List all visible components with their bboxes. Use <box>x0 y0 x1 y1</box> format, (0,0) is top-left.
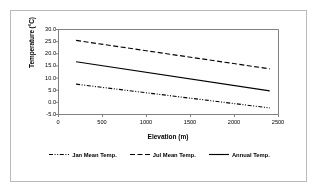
legend-label: Annual Temp. <box>232 152 270 158</box>
x-tick-label: 500 <box>87 119 117 125</box>
x-tick-label: 0 <box>43 119 73 125</box>
x-tick-label: 1000 <box>131 119 161 125</box>
x-tick-label: 1500 <box>175 119 205 125</box>
x-tick-label: 2000 <box>219 119 249 125</box>
legend-item: Annual Temp. <box>209 151 270 158</box>
chart-figure: Temperature (°C) Elevation (m) 30.025.02… <box>10 10 307 182</box>
x-tick-label: 2500 <box>263 119 293 125</box>
legend-label: Jan Mean Temp. <box>72 152 117 158</box>
legend-item: Jul Mean Temp. <box>130 151 196 158</box>
legend-item: Jan Mean Temp. <box>49 151 117 158</box>
legend-swatch-icon <box>49 151 69 158</box>
legend-swatch-icon <box>209 151 229 158</box>
legend-swatch-icon <box>130 151 150 158</box>
legend-label: Jul Mean Temp. <box>153 152 196 158</box>
chart-legend: Jan Mean Temp.Jul Mean Temp.Annual Temp. <box>11 151 308 158</box>
